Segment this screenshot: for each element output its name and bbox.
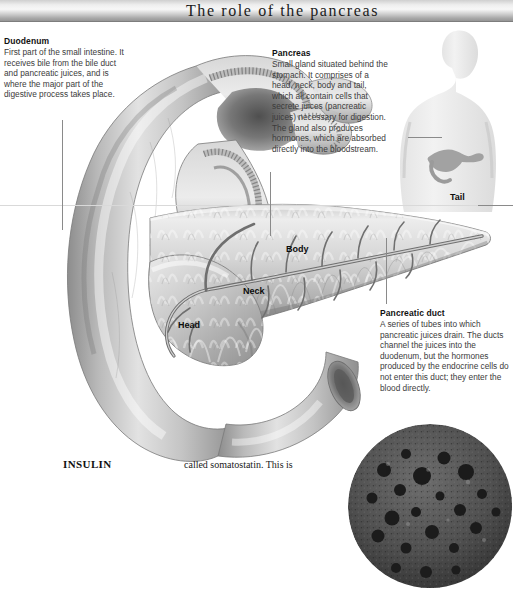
callout-pancreatic-duct: Pancreatic duct A series of tubes into w… xyxy=(380,308,512,393)
page-title: The role of the pancreas xyxy=(0,0,513,22)
horizontal-rule xyxy=(0,205,513,206)
callout-pancreas: Pancreas Small gland situated behind the… xyxy=(272,48,388,154)
callout-pancreas-heading: Pancreas xyxy=(272,48,388,58)
anatomy-label-head: Head xyxy=(178,320,200,330)
callout-pancreatic-duct-body: A series of tubes into which pancreatic … xyxy=(380,319,512,393)
callout-pancreas-body: Small gland situated behind the stomach.… xyxy=(272,59,388,154)
islet-cells-micrograph xyxy=(348,424,513,589)
callout-duodenum-heading: Duodenum xyxy=(4,36,132,46)
callout-duodenum-body: First part of the small intestine. It re… xyxy=(4,47,132,100)
callout-pancreatic-duct-heading: Pancreatic duct xyxy=(380,308,512,318)
leader-line-duodenum xyxy=(62,120,63,230)
anatomy-label-tail: Tail xyxy=(450,192,465,202)
title-banner: The role of the pancreas xyxy=(0,0,513,22)
bottom-column-fragment: called somatostatin. This is xyxy=(184,459,293,470)
leader-line-pancreatic-duct xyxy=(386,238,387,304)
bottom-column-heading: INSULIN xyxy=(63,458,112,470)
human-torso-diagram xyxy=(400,30,496,212)
leader-line-torso-pancreas xyxy=(408,137,442,138)
leader-line-pancreas xyxy=(270,172,271,236)
leader-line-tail xyxy=(478,205,513,206)
anatomy-label-neck: Neck xyxy=(243,286,265,296)
anatomy-label-body: Body xyxy=(286,244,309,254)
callout-duodenum: Duodenum First part of the small intesti… xyxy=(4,36,132,100)
